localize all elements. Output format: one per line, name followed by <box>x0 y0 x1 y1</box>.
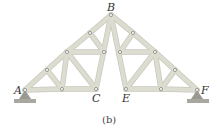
truss-member <box>133 33 155 52</box>
truss-member <box>67 33 90 52</box>
joint-pin-icon <box>88 31 91 34</box>
truss-member <box>126 52 155 89</box>
joint-pin-icon <box>173 68 176 71</box>
joint-pin-icon <box>65 50 68 53</box>
figure-caption: (b) <box>102 115 116 125</box>
joint-pin-icon <box>195 88 198 91</box>
label-e: E <box>122 93 130 104</box>
joint-pin-icon <box>153 50 156 53</box>
joint-pin-icon <box>159 87 162 90</box>
joint-pin-icon <box>23 88 26 91</box>
truss-member <box>47 70 62 89</box>
joint-pin-icon <box>94 87 97 90</box>
label-c: C <box>92 93 100 104</box>
ground-f <box>187 99 209 103</box>
label-a: A <box>14 85 22 96</box>
joint-pin-icon <box>60 87 63 90</box>
joint-pin-icon <box>102 50 105 53</box>
truss-member <box>120 33 133 52</box>
ground-a <box>14 99 36 103</box>
truss-member <box>161 89 197 90</box>
truss-member <box>161 70 175 89</box>
joint-pin-icon <box>124 87 127 90</box>
truss-figure: A B C E F (b) <box>0 0 217 134</box>
truss-member <box>90 33 104 52</box>
label-f: F <box>201 85 209 96</box>
truss-member <box>67 52 96 89</box>
joint-pin-icon <box>131 31 134 34</box>
joint-pin-icon <box>45 68 48 71</box>
joint-pin-icon <box>118 50 121 53</box>
label-b: B <box>107 2 115 13</box>
truss-members-outline <box>25 15 197 90</box>
truss-member <box>25 89 62 90</box>
